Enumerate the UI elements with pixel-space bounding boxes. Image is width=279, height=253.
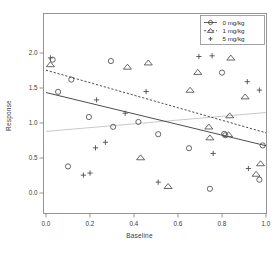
y-tick-label: 0.0: [29, 189, 38, 196]
data-point: [111, 124, 116, 129]
data-point: [246, 166, 251, 171]
x-axis-title: Baseline: [0, 232, 279, 239]
data-point: [211, 151, 216, 156]
data-point: [156, 132, 161, 137]
data-point: [144, 89, 149, 94]
x-tick-label: 0.0: [42, 220, 51, 227]
x-tick-label: 0.6: [174, 220, 183, 227]
data-point: [81, 173, 86, 178]
data-point: [69, 77, 74, 82]
data-point: [123, 64, 131, 69]
data-point: [210, 53, 215, 58]
data-point: [164, 184, 172, 189]
x-tick-label: 0.8: [218, 220, 227, 227]
data-point: [65, 164, 70, 169]
plot-canvas: 0.00.20.40.60.81.00.00.51.01.52.0 0 mg/k…: [0, 0, 279, 253]
series-0-mg-kg: [50, 57, 265, 191]
legend: 0 mg/kg1 mg/kg5 mg/kg: [201, 16, 265, 45]
data-point: [205, 124, 213, 129]
data-point: [93, 145, 98, 150]
data-point: [86, 114, 91, 119]
data-point: [252, 171, 260, 176]
x-tick-label: 0.4: [130, 220, 139, 227]
data-point: [241, 94, 249, 99]
reference-trend-line: [46, 113, 266, 132]
data-point: [256, 161, 264, 166]
data-point: [257, 88, 262, 93]
x-tick-label: 0.2: [86, 220, 95, 227]
data-point: [207, 186, 212, 191]
data-point: [219, 70, 224, 75]
data-point: [137, 155, 145, 160]
data-point: [94, 97, 99, 102]
y-tick-label: 2.0: [29, 49, 38, 56]
data-point: [56, 89, 61, 94]
data-point: [144, 60, 152, 65]
x-tick-label: 1.0: [262, 220, 271, 227]
data-point: [156, 180, 161, 185]
y-tick-label: 1.5: [29, 84, 38, 91]
data-point: [186, 146, 191, 151]
y-tick-label: 1.0: [29, 119, 38, 126]
data-point: [257, 177, 262, 182]
data-point: [206, 135, 214, 140]
data-point: [48, 55, 53, 60]
data-point: [103, 140, 108, 145]
data-point: [227, 55, 235, 60]
y-axis-title: Response: [5, 86, 12, 146]
y-tick-label: 0.5: [29, 154, 38, 161]
data-point: [245, 79, 250, 84]
data-point: [186, 87, 194, 92]
data-point: [87, 170, 92, 175]
scatter-plot-figure: 0.00.20.40.60.81.00.00.51.01.52.0 0 mg/k…: [0, 0, 279, 253]
data-point: [194, 69, 202, 74]
legend-label: 1 mg/kg: [223, 27, 246, 34]
legend-label: 5 mg/kg: [223, 35, 246, 42]
data-point: [108, 58, 113, 63]
data-point: [196, 54, 201, 59]
legend-label: 0 mg/kg: [223, 19, 246, 26]
